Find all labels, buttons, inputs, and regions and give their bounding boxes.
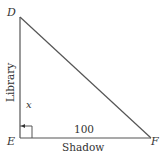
- arrow-icon: [21, 124, 25, 128]
- vertex-label-d: D: [6, 6, 16, 19]
- triangle-diagram: D E F Library x 100 Shadow: [0, 0, 164, 154]
- vertex-label-e: E: [6, 135, 15, 148]
- side-df-hypotenuse: [20, 17, 151, 138]
- side-value-100: 100: [74, 123, 94, 135]
- side-name-library: Library: [4, 63, 16, 102]
- right-angle-marker: [20, 126, 32, 138]
- vertex-label-f: F: [150, 135, 159, 148]
- side-value-x: x: [26, 99, 32, 110]
- side-name-shadow: Shadow: [62, 141, 104, 153]
